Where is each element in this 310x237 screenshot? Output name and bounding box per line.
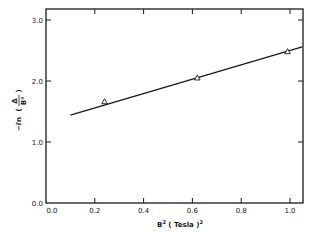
x-tick-label: 1.0 — [284, 207, 295, 215]
axis-ticks — [46, 9, 303, 203]
y-tick-label: 2.0 — [32, 78, 43, 86]
y-axis-label: −ℓn ( Δ B⁴ ) — [11, 89, 28, 131]
tick-labels: 0.00.20.40.60.81.00.01.02.03.0 — [32, 17, 296, 216]
chart: 0.00.20.40.60.81.00.01.02.03.0 B2 ( Tesl… — [0, 0, 310, 237]
y-tick-label: 1.0 — [32, 139, 43, 147]
y-axis-label-prefix: −ℓn — [15, 117, 23, 131]
plot-frame — [46, 9, 303, 203]
y-tick-label: 0.0 — [32, 200, 43, 208]
x-tick-label: 0.6 — [187, 207, 199, 215]
fit-line — [70, 47, 302, 115]
x-tick-label: 0.8 — [236, 207, 247, 215]
y-tick-label: 3.0 — [32, 17, 43, 25]
x-tick-label: 0.4 — [138, 207, 150, 215]
y-axis-label-numerator: Δ — [11, 98, 19, 104]
data-series — [70, 47, 302, 115]
x-tick-label: 0.0 — [46, 207, 57, 215]
y-axis-label-denominator: B⁴ — [20, 97, 28, 105]
svg-text:): ) — [15, 89, 23, 92]
x-tick-label: 0.2 — [89, 207, 100, 215]
triangle-marker — [102, 99, 108, 104]
svg-text:(: ( — [15, 108, 23, 111]
x-axis-label: B2 ( Tesla )2 — [157, 219, 203, 229]
